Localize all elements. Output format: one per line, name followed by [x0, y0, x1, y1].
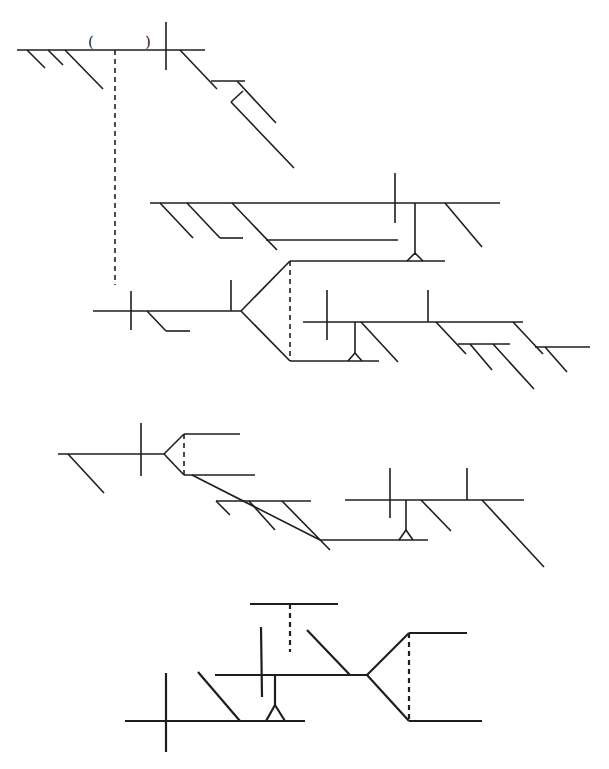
- diagram-canvas: (): [0, 0, 609, 769]
- open-bracket-glyph: (: [88, 33, 94, 51]
- close-bracket-glyph: ): [145, 33, 151, 51]
- cross-bar-segment: [261, 627, 262, 697]
- background: [0, 0, 609, 769]
